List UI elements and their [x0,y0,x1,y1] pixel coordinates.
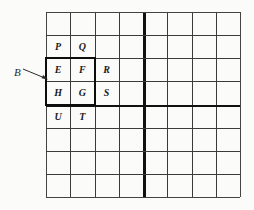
callout-label-b: B [14,66,21,78]
grid-line-horizontal-5 [46,128,240,129]
grid-cell-s: S [95,81,119,104]
grid-cell-u: U [46,105,70,128]
grid: PQEFRHGSUT [46,12,240,197]
grid-line-vertical-8 [240,12,241,197]
grid-cell-q: Q [70,35,94,58]
callout-arrow-icon [22,66,50,84]
grid-cell-g: G [70,81,94,104]
grid-cell-t: T [70,105,94,128]
grid-cell-f: F [70,58,94,81]
grid-cell-h: H [46,81,70,104]
figure-canvas: PQEFRHGSUT B [0,0,254,210]
grid-line-horizontal-7 [46,174,240,175]
grid-cell-r: R [95,58,119,81]
grid-cell-p: P [46,35,70,58]
grid-line-horizontal-0 [46,12,240,13]
grid-line-horizontal-8 [46,197,240,198]
grid-line-horizontal-6 [46,151,240,152]
